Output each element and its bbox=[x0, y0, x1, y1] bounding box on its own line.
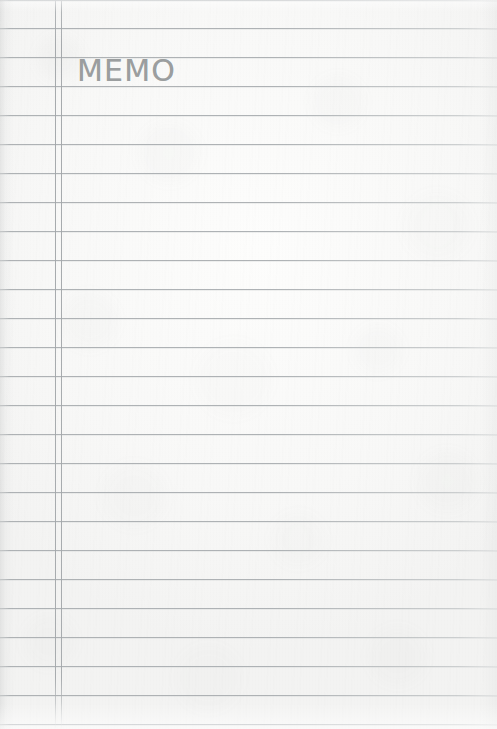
writing-area[interactable] bbox=[62, 0, 497, 729]
memo-page: MEMO bbox=[0, 0, 497, 729]
page-title: MEMO bbox=[77, 55, 176, 86]
left-margin-column[interactable] bbox=[0, 0, 55, 729]
